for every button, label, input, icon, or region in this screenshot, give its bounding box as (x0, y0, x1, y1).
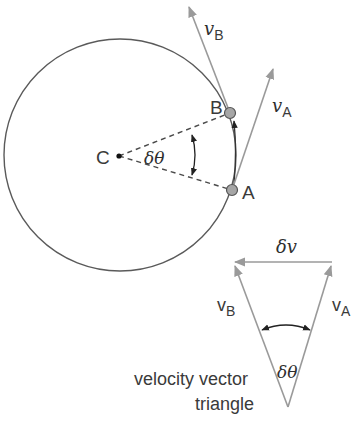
triangle-vb-label: vB (217, 295, 235, 319)
triangle-va-vector (288, 266, 331, 407)
velocity-vector-a (232, 69, 273, 190)
triangle-caption-line1: velocity vector (134, 369, 248, 389)
point-a-label: A (242, 182, 255, 203)
triangle-angle-arc-icon (262, 325, 310, 330)
point-a (227, 185, 238, 196)
triangle-caption-line2: triangle (195, 394, 254, 414)
delta-v-label: δv (276, 236, 297, 257)
angle-label: δθ (144, 148, 164, 168)
motion-direction-arrow (234, 121, 236, 184)
triangle-angle-label: δθ (277, 362, 297, 382)
velocity-b-label: vB (204, 18, 224, 43)
angle-arc-icon (192, 135, 195, 175)
center-label: C (96, 147, 110, 168)
center-point (116, 153, 121, 158)
point-b-label: B (210, 97, 223, 118)
velocity-a-label: vA (272, 95, 292, 120)
radius-to-b (119, 113, 230, 156)
point-b (225, 108, 236, 119)
circular-motion-diagram: C δθ B A vB vA δv vB vA δθ velocity vect… (0, 0, 360, 428)
radius-to-a (119, 156, 232, 190)
triangle-va-label: vA (332, 295, 351, 319)
